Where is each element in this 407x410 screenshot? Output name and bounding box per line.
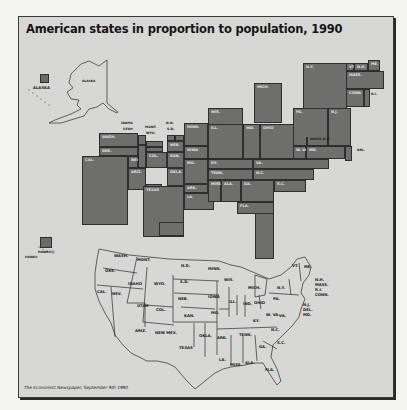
reference-map-state-label: MD. <box>303 312 311 317</box>
reference-map-state-label: VT. <box>292 263 298 268</box>
reference-map-state-label: ALA. <box>245 360 255 365</box>
reference-map-state-label: WASH. <box>114 253 128 258</box>
source-credit: The Economist Newspaper, September 9th 1… <box>24 385 128 390</box>
reference-map-state-label: N.D. <box>181 263 190 268</box>
callout-label: WASH. D.C. <box>310 137 331 141</box>
reference-map-state-label: N.Y. <box>277 285 285 290</box>
reference-map-state-label: WYO. <box>154 281 165 286</box>
callout-label: N.D. <box>166 121 174 125</box>
usa-outline-map-icon <box>19 17 393 397</box>
chart-frame: American states in proportion to populat… <box>18 16 394 398</box>
reference-map-state-label: MONT. <box>137 257 151 262</box>
reference-map-state-label: IND. <box>243 301 252 306</box>
reference-map-state-label: N.C. <box>271 327 280 332</box>
callout-label: S.D. <box>167 127 174 131</box>
reference-map-state-label: MICH. <box>248 285 261 290</box>
reference-map-state-label: OHIO <box>254 300 265 305</box>
reference-map-state-label: ORE. <box>105 268 115 273</box>
reference-map-state-label: MINN. <box>208 266 221 271</box>
reference-map-state-label: WIS. <box>224 277 234 282</box>
reference-map-state-label: CAL. <box>97 289 107 294</box>
reference-map-state-label: TEXAS <box>179 345 193 350</box>
reference-map-state-label: MISS. <box>230 362 242 367</box>
reference-map-state-label: OKLA. <box>199 333 212 338</box>
callout-label: MONT. <box>145 125 156 129</box>
callout-label: UTAH <box>123 127 133 131</box>
reference-map-state-label: CONN. <box>315 292 329 297</box>
reference-map-state-label: NEV. <box>112 291 122 296</box>
callout-label: R.I. <box>371 92 377 96</box>
reference-map-state-label: W. VA. <box>266 312 280 317</box>
reference-map-state-label: S.D. <box>180 279 189 284</box>
reference-map-state-label: COL. <box>156 307 166 312</box>
reference-map-state-label: MO. <box>211 310 219 315</box>
callout-label: IDAHO <box>121 121 133 125</box>
reference-map-state-label: IDAHO <box>128 281 142 286</box>
reference-map-state-label: KAN. <box>184 313 195 318</box>
reference-map-state-label: UTAH <box>137 303 149 308</box>
reference-map-state-label: PA. <box>273 296 280 301</box>
reference-map-state-label: NEW MEX. <box>155 330 177 335</box>
reference-map-state-label: IOWA <box>208 294 220 299</box>
reference-map-state-label: ILL. <box>229 299 237 304</box>
callout-label: DEL. <box>357 148 365 152</box>
reference-map-state-label: ME. <box>304 264 312 269</box>
reference-map-state-label: TENN. <box>239 332 252 337</box>
reference-map-state-label: ARIZ. <box>135 328 146 333</box>
reference-map-state-label: ARK. <box>217 335 227 340</box>
reference-map-state-label: KY. <box>253 318 260 323</box>
reference-map-state-label: GA. <box>259 344 267 349</box>
reference-map-state-label: LA. <box>219 357 226 362</box>
reference-map-state-label: NEB. <box>178 296 188 301</box>
callout-label: WYO. <box>146 131 156 135</box>
reference-map-state-label: VA. <box>279 313 286 318</box>
reference-map-state-label: S.C. <box>277 340 285 345</box>
reference-map-state-label: FLA. <box>265 367 274 372</box>
